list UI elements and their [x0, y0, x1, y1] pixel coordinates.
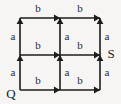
edge-label-h-bot-left: b — [35, 74, 41, 86]
node-label-node-q: Q — [6, 86, 16, 101]
state-grid-diagram: bbbbbbaaaaaaQS — [0, 0, 121, 104]
edge-label-h-mid-right: b — [77, 39, 83, 51]
edge-label-v-mid-lower: a — [65, 66, 70, 78]
edge-h-top-left — [20, 15, 60, 22]
edge-label-h-top-right: b — [77, 2, 83, 14]
arrowhead-right-icon — [54, 87, 60, 94]
edge-h-bot-left — [20, 87, 60, 94]
node-label-node-s: S — [107, 46, 114, 61]
edge-h-top-right — [60, 15, 100, 22]
edge-label-v-mid-upper: a — [65, 30, 70, 42]
edge-label-v-right-upper: a — [105, 30, 110, 42]
edge-label-h-bot-right: b — [77, 74, 83, 86]
edge-h-mid-left — [20, 52, 60, 59]
edge-label-v-right-lower: a — [105, 66, 110, 78]
arrowhead-up-icon — [17, 18, 24, 24]
edge-h-mid-right — [60, 52, 100, 59]
edges-layer — [17, 15, 104, 94]
edge-label-v-left-upper: a — [11, 30, 16, 42]
edge-v-right-upper — [97, 18, 104, 55]
arrowhead-right-icon — [94, 87, 100, 94]
diagram-canvas: bbbbbbaaaaaaQS — [0, 0, 121, 104]
arrowhead-up-icon — [17, 55, 24, 61]
edge-h-bot-right — [60, 87, 100, 94]
edge-label-v-left-lower: a — [11, 66, 16, 78]
edge-label-h-mid-left: b — [35, 39, 41, 51]
edge-v-mid-lower — [57, 55, 64, 90]
edge-v-mid-upper — [57, 18, 64, 55]
edge-v-right-lower — [97, 55, 104, 90]
edge-label-h-top-left: b — [35, 2, 41, 14]
edge-v-left-upper — [17, 18, 24, 55]
edge-v-left-lower — [17, 55, 24, 90]
